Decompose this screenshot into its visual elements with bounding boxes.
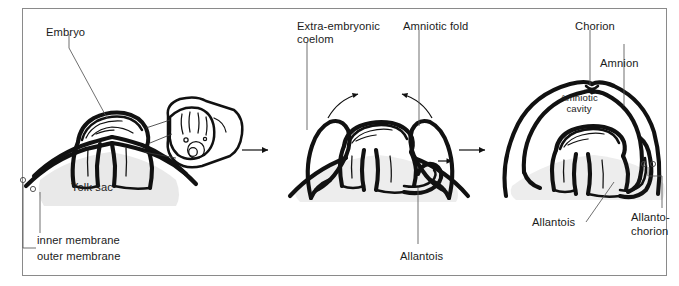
marker-inner-membrane: [30, 186, 35, 191]
panel-folding-drawing: [290, 30, 468, 244]
label-amniotic-fold: Amniotic fold: [403, 20, 468, 33]
leader-embryo: [69, 34, 107, 118]
label-extra-embryonic-coelom-line2: coelom: [297, 33, 334, 46]
label-allantochorion-line2: chorion: [631, 225, 668, 238]
label-allantois-middle: Allantois: [400, 250, 443, 263]
label-amniotic-cavity-line2: cavity: [550, 103, 608, 114]
label-extra-embryonic-coelom-line1: Extra-embryonic: [297, 20, 380, 33]
label-allantochorion-line1: Allanto-: [631, 211, 670, 224]
label-amniotic-cavity-line1: Amniotic: [550, 92, 608, 103]
label-allantois-right: Allantois: [532, 216, 575, 229]
panel-early-drawing: [20, 34, 242, 248]
fold-left-motion-arrow: [328, 94, 358, 118]
fold-right-motion-arrow: [402, 94, 432, 118]
label-outer-membrane: outer membrane: [37, 250, 120, 263]
label-chorion: Chorion: [575, 20, 615, 33]
panel-complete-drawing: [505, 30, 665, 222]
marker-outer-membrane: [20, 177, 25, 182]
label-amnion: Amnion: [600, 57, 639, 70]
label-inner-membrane: inner membrane: [37, 234, 120, 247]
embryonic-membrane-diagram: Embryo Yolk sac inner membrane outer mem…: [0, 0, 679, 286]
leader-outer-membrane: [23, 183, 36, 248]
label-embryo: Embryo: [46, 26, 85, 39]
label-yolk-sac: Yolk sac: [71, 181, 113, 194]
